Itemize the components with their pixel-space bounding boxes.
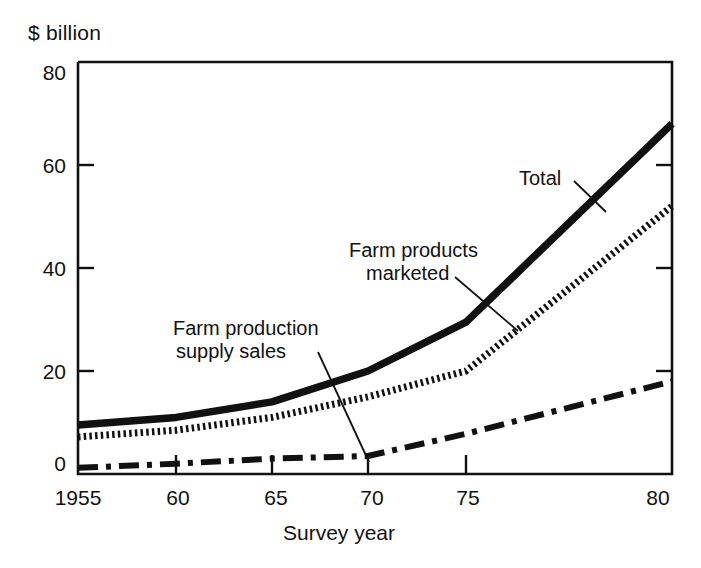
- x-axis-ticks: [176, 455, 466, 474]
- series-line-farm-production-supply-sales: [78, 381, 672, 468]
- axis-frame: [78, 62, 672, 474]
- chart-plot-svg: [0, 0, 701, 568]
- chart-figure: $ billion 80 60 40 20 0 1955 60 65 70 75…: [0, 0, 701, 568]
- y-axis-ticks: [78, 165, 672, 371]
- leader-line-farm-production-supply-sales: [318, 352, 369, 462]
- series-line-total: [78, 124, 672, 425]
